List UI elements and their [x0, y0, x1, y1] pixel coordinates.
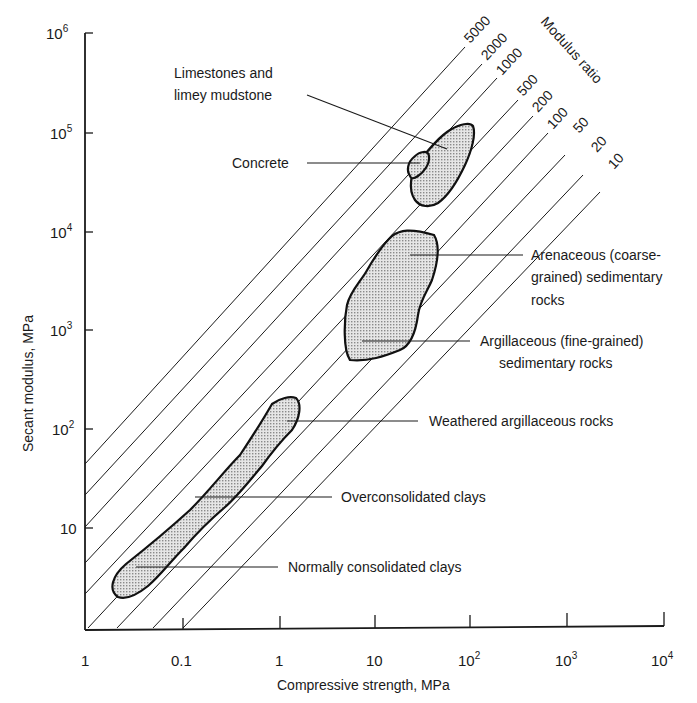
label-arenaceous-1: Arenaceous (coarse-	[531, 247, 661, 263]
label-arenaceous-2: grained) sedimentary	[531, 269, 663, 285]
modulus-ratio-title: Modulus ratio	[538, 13, 606, 86]
ratio-label-50: 50	[569, 114, 591, 136]
y-label-1e6: 106	[46, 23, 69, 42]
material-regions	[112, 124, 474, 598]
label-argillaceous-1: Argillaceous (fine-grained)	[480, 333, 643, 349]
y-axis-title: Secant modulus, MPa	[20, 315, 36, 452]
label-limestones-2: limey mudstone	[174, 87, 272, 103]
x-label-1e3: 103	[555, 650, 578, 669]
y-label-1e2: 102	[52, 419, 75, 438]
ratio-label-20: 20	[587, 133, 609, 155]
label-argillaceous-2: sedimentary rocks	[499, 355, 613, 371]
ratio-label-100: 100	[543, 104, 571, 132]
x-label-0.01: 1	[81, 652, 89, 669]
ratio-label-10: 10	[604, 150, 626, 172]
y-label-1e4: 104	[50, 222, 73, 241]
x-axis-title: Compressive strength, MPa	[277, 677, 450, 693]
label-concrete: Concrete	[232, 155, 289, 171]
x-label-0.1: 0.1	[171, 652, 192, 669]
label-overconsolidated: Overconsolidated clays	[341, 489, 486, 505]
leader-limestones	[307, 95, 447, 149]
x-label-1e4: 104	[651, 650, 674, 669]
y-label-1e3: 103	[50, 320, 73, 339]
label-weathered: Weathered argillaceous rocks	[429, 413, 613, 429]
x-tick-labels: 1 0.1 1 10 102 103 104	[81, 650, 674, 669]
label-limestones-1: Limestones and	[174, 65, 273, 81]
x-label-1e2: 102	[458, 650, 481, 669]
label-normally: Normally consolidated clays	[288, 559, 462, 575]
x-label-1: 1	[275, 652, 283, 669]
ratio-line-50	[117, 155, 565, 628]
x-label-10: 10	[366, 652, 383, 669]
label-arenaceous-3: rocks	[531, 292, 564, 308]
y-tick-labels: 106 105 104 103 102 10	[46, 23, 77, 537]
y-label-1e5: 105	[50, 123, 73, 142]
ratio-line-200	[85, 116, 533, 594]
y-label-10: 10	[60, 520, 77, 537]
modulus-ratio-labels: 5000 2000 1000 500 200 100 50 20 10 Modu…	[460, 12, 626, 172]
modulus-ratio-chart: 5000 2000 1000 500 200 100 50 20 10 Modu…	[0, 0, 697, 703]
